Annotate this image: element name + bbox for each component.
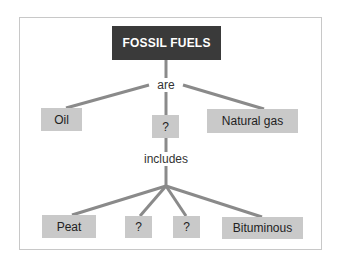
- node-peat: Peat: [42, 215, 96, 238]
- node-unknown-1: ?: [125, 216, 152, 238]
- node-natural-gas: Natural gas: [207, 109, 298, 133]
- node-unknown-2: ?: [173, 216, 200, 238]
- node-label: ?: [183, 220, 190, 234]
- node-label: Oil: [54, 113, 69, 127]
- node-label: Bituminous: [233, 221, 292, 235]
- link-label-includes: includes: [141, 152, 191, 166]
- link-label-are: are: [154, 78, 177, 92]
- node-label: Peat: [57, 220, 82, 234]
- node-bituminous: Bituminous: [222, 217, 303, 239]
- node-label: ?: [135, 220, 142, 234]
- node-unknown-middle: ?: [152, 115, 179, 138]
- title-node: FOSSIL FUELS: [112, 26, 221, 60]
- node-oil: Oil: [41, 108, 82, 131]
- title-text: FOSSIL FUELS: [122, 36, 210, 50]
- node-label: ?: [162, 120, 169, 134]
- node-label: Natural gas: [222, 114, 283, 128]
